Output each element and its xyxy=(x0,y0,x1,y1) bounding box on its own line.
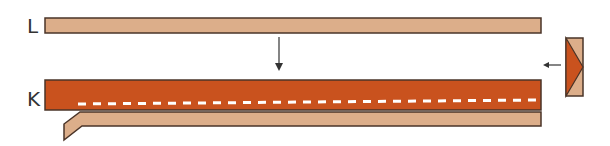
bottom-strip xyxy=(64,112,541,140)
strip-l xyxy=(45,18,541,33)
strip-k xyxy=(45,80,541,110)
assembly-diagram: L K xyxy=(0,0,610,146)
side-piece xyxy=(566,38,583,96)
label-k: K xyxy=(27,87,41,111)
left-arrow-icon xyxy=(543,62,561,68)
label-l: L xyxy=(27,14,39,38)
down-arrow-icon xyxy=(275,37,283,71)
